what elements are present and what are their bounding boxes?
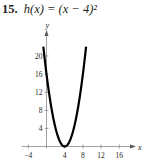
x-tick-label: 16 [116,151,124,160]
y-axis-arrow [45,30,49,36]
x-axis-arrow [130,145,136,149]
parabola-curve [43,47,86,147]
tick-labels: −448121648121620 [24,52,123,160]
y-tick-label: 12 [35,88,43,97]
y-tick-label: 4 [39,124,43,133]
x-tick-label: 12 [97,151,105,160]
x-tick-label: 4 [63,151,67,160]
y-tick-label: 20 [35,52,43,61]
y-axis-label: y [45,21,50,30]
x-tick-label: 8 [81,151,85,160]
x-tick-label: −4 [24,151,32,160]
y-tick-label: 16 [35,70,43,79]
y-tick-label: 8 [39,106,43,115]
x-axis-label: x [137,143,142,152]
chart: −448121648121620 x y [0,0,150,161]
